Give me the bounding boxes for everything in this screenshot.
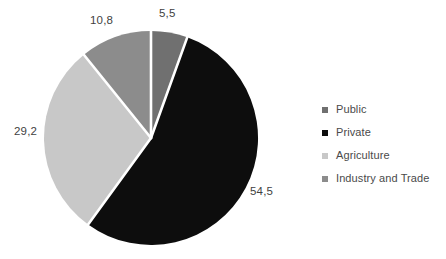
legend-swatch-icon (322, 130, 328, 136)
chart-legend: Public Private Agriculture Industry and … (322, 98, 442, 190)
pie-chart: 5,5 10,8 29,2 54,5 Public Private Agricu… (0, 0, 446, 259)
legend-label: Agriculture (336, 149, 390, 162)
legend-swatch-icon (322, 107, 328, 113)
legend-item-agriculture[interactable]: Agriculture (322, 144, 442, 167)
legend-item-industry-and-trade[interactable]: Industry and Trade (322, 167, 442, 190)
legend-label: Private (336, 126, 371, 139)
legend-swatch-icon (322, 176, 328, 182)
data-label-agriculture: 29,2 (14, 125, 37, 138)
legend-label: Public (336, 103, 367, 116)
legend-swatch-icon (322, 153, 328, 159)
legend-label: Industry and Trade (336, 172, 430, 185)
legend-item-private[interactable]: Private (322, 121, 442, 144)
data-label-private: 54,5 (250, 185, 273, 198)
data-label-industry-and-trade: 10,8 (90, 14, 113, 27)
data-label-public: 5,5 (159, 7, 176, 20)
legend-item-public[interactable]: Public (322, 98, 442, 121)
